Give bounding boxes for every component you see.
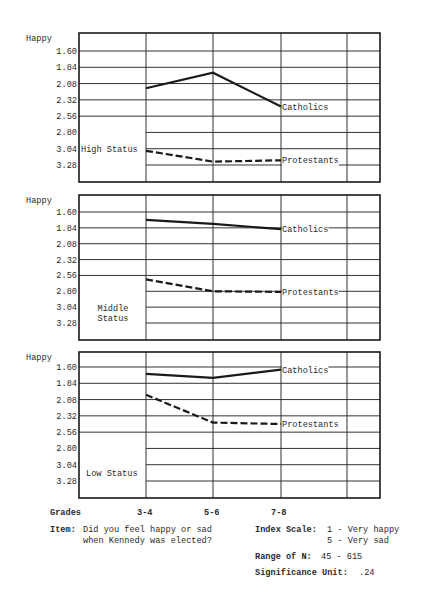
y-tick-label: 2.56 <box>56 112 77 122</box>
range-of-n-value: 45 - 615 <box>321 552 362 562</box>
y-tick-label: 3.04 <box>56 145 77 155</box>
panel-status-label: Low Status <box>86 469 138 479</box>
y-tick-label: 2.32 <box>56 96 77 106</box>
item-label: Item: <box>50 525 76 535</box>
y-tick-label: 2.56 <box>56 428 77 438</box>
panel-high-status: Happy1.601.842.082.322.562.803.043.28Hig… <box>26 33 380 182</box>
panel-low-status: Happy1.601.842.082.322.562.803.043.28Low… <box>26 352 380 498</box>
y-tick-label: 2.80 <box>56 287 77 297</box>
y-tick-label: 2.56 <box>56 271 77 281</box>
y-tick-label: 3.04 <box>56 461 77 471</box>
x-tick-7-8: 7-8 <box>271 508 286 518</box>
y-tick-label: 2.80 <box>56 444 77 454</box>
y-tick-label: 1.84 <box>56 379 77 389</box>
y-tick-label: 2.08 <box>56 240 77 250</box>
panel-middle-status: Happy1.601.842.082.322.562.803.043.28Mid… <box>26 195 380 340</box>
index-scale-label: Index Scale: <box>255 525 317 535</box>
series-label-protestants: Protestants <box>282 420 339 430</box>
y-tick-label: 2.32 <box>56 256 77 266</box>
series-label-protestants: Protestants <box>282 156 339 166</box>
y-tick-label: 3.28 <box>56 161 77 171</box>
index-scale-line2: 5 - Very sad <box>327 536 389 546</box>
y-tick-label: 2.32 <box>56 412 77 422</box>
series-label-catholics: Catholics <box>282 225 328 235</box>
range-of-n-label: Range of N: <box>255 552 312 562</box>
y-tick-label: 3.28 <box>56 477 77 487</box>
item-text-line2: when Kennedy was elected? <box>83 536 212 546</box>
panel-status-label: Middle <box>98 304 129 314</box>
y-tick-label: 1.84 <box>56 63 77 73</box>
y-tick-label: 1.60 <box>56 363 77 373</box>
series-label-catholics: Catholics <box>282 366 328 376</box>
y-tick-label: 3.04 <box>56 303 77 313</box>
index-scale-line1: 1 - Very happy <box>327 525 399 535</box>
y-axis-label: Happy <box>26 353 52 363</box>
panel-status-label: High Status <box>81 145 138 155</box>
significance-unit-label: Significance Unit: <box>255 568 348 578</box>
y-tick-label: 3.28 <box>56 319 77 329</box>
significance-unit-value: .24 <box>359 568 374 578</box>
series-label-protestants: Protestants <box>282 288 339 298</box>
panel-status-label: Status <box>98 314 129 324</box>
x-tick-3-4: 3-4 <box>137 508 152 518</box>
y-tick-label: 1.84 <box>56 224 77 234</box>
y-tick-label: 1.60 <box>56 208 77 218</box>
y-tick-label: 2.08 <box>56 80 77 90</box>
y-axis-label: Happy <box>26 34 52 44</box>
y-tick-label: 1.60 <box>56 47 77 57</box>
x-tick-5-6: 5-6 <box>204 508 219 518</box>
series-label-catholics: Catholics <box>282 103 328 113</box>
x-axis-title: Grades <box>50 508 81 518</box>
item-text-line1: Did you feel happy or sad <box>83 525 212 535</box>
y-axis-label: Happy <box>26 196 52 206</box>
y-tick-label: 2.80 <box>56 128 77 138</box>
y-tick-label: 2.08 <box>56 396 77 406</box>
